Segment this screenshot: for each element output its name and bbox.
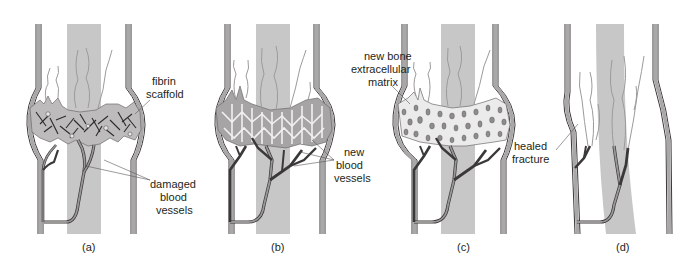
fracture-healing-diagram: fibrin scaffold damaged blood vessels (a…	[0, 0, 698, 261]
caption-d: (d)	[616, 241, 629, 253]
label-new-bone-matrix-3: matrix	[368, 76, 398, 88]
label-new-bone-matrix-1: new bone	[364, 50, 412, 62]
panel-d: healed fracture (d)	[512, 24, 672, 253]
label-fibrin-scaffold-1: fibrin	[152, 75, 176, 87]
panel-a: fibrin scaffold damaged blood vessels (a…	[27, 24, 196, 253]
label-new-bone-matrix-2: extracellular	[351, 63, 411, 75]
label-damaged-vessels-1: damaged	[150, 178, 196, 190]
panel-c: new bone extracellular matrix (c)	[351, 24, 515, 253]
label-new-vessels-2: blood	[336, 159, 363, 171]
label-new-vessels-1: new	[344, 146, 364, 158]
label-healed-fracture-2: fracture	[512, 153, 549, 165]
caption-c: (c)	[457, 241, 470, 253]
label-damaged-vessels-3: vessels	[156, 204, 193, 216]
caption-a: (a)	[82, 241, 95, 253]
label-fibrin-scaffold-2: scaffold	[146, 88, 184, 100]
label-damaged-vessels-2: blood	[160, 191, 187, 203]
panel-b: new blood vessels (b)	[215, 24, 371, 253]
label-new-vessels-3: vessels	[334, 172, 371, 184]
caption-b: (b)	[271, 241, 284, 253]
label-healed-fracture-1: healed	[514, 140, 547, 152]
